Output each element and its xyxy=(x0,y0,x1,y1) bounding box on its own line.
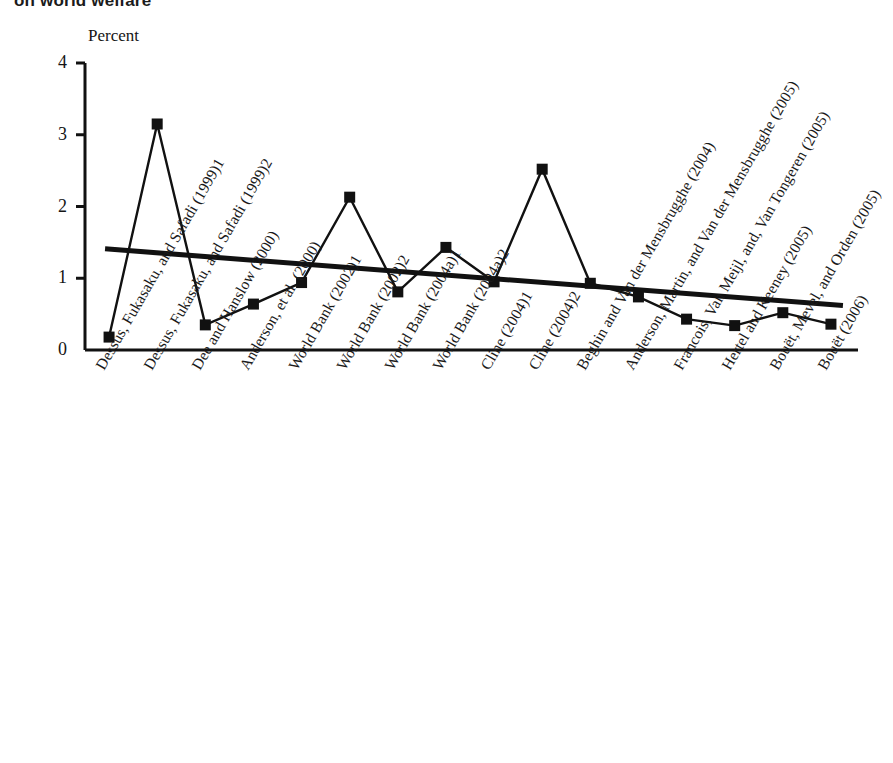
y-axis-tick-label: 0 xyxy=(43,340,67,358)
figure-container: on world welfare Percent 01234 Dessus, F… xyxy=(0,0,893,763)
data-point-marker xyxy=(248,299,259,310)
chart-plot-area xyxy=(0,0,893,763)
data-point-marker xyxy=(537,164,548,175)
data-point-marker xyxy=(777,307,788,318)
data-point-marker xyxy=(585,278,596,289)
data-point-marker xyxy=(152,118,163,129)
y-axis-tick-label: 2 xyxy=(43,197,67,215)
y-axis-tick-label: 4 xyxy=(43,53,67,71)
y-axis-tick-label: 1 xyxy=(43,268,67,286)
data-point-marker xyxy=(681,314,692,325)
data-point-marker xyxy=(344,192,355,203)
y-axis-tick-label: 3 xyxy=(43,125,67,143)
